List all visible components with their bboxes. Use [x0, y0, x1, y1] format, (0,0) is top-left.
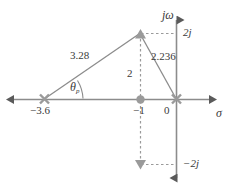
plot-canvas: [0, 0, 241, 188]
vector-lines: [45, 34, 176, 99]
pole-zero-diagram: jω σ 2j −2j −3.6 −1 0 3.28 2.236 2 θp: [0, 0, 241, 188]
real-axis-label: σ: [216, 107, 222, 119]
tick-label-zero: 0: [164, 105, 170, 116]
vector-2-236: [141, 35, 177, 99]
tick-label-minus-2j: −2j: [183, 158, 199, 169]
imaginary-axis-label: jω: [162, 9, 174, 21]
tick-label-minus-3-6: −3.6: [30, 105, 50, 116]
theta-subscript: p: [76, 87, 80, 95]
tick-label-2j: 2j: [183, 27, 192, 38]
annotation-2-236: 2.236: [151, 51, 176, 62]
zero-marker-minus-1: [136, 95, 144, 103]
annotation-2: 2: [127, 68, 133, 79]
tick-label-minus-1: −1: [133, 105, 145, 116]
vector-3-28: [45, 34, 139, 99]
annotation-3-28: 3.28: [70, 50, 89, 61]
pole-marker-lower-complex: [135, 160, 146, 170]
pole-marker-upper-complex: [135, 29, 146, 39]
angle-label-theta-p: θp: [70, 81, 79, 95]
